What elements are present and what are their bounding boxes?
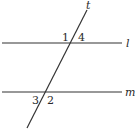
angle-label-3: 3 xyxy=(32,94,39,107)
angle-label-2: 2 xyxy=(47,94,54,107)
transversal-t xyxy=(27,10,87,128)
label-m: m xyxy=(125,86,135,99)
label-l: l xyxy=(126,37,130,50)
parallel-lines-diagram: t l m 1 4 3 2 xyxy=(0,0,137,135)
angle-label-1: 1 xyxy=(62,31,69,44)
angle-label-4: 4 xyxy=(78,31,85,44)
label-t: t xyxy=(86,0,91,12)
